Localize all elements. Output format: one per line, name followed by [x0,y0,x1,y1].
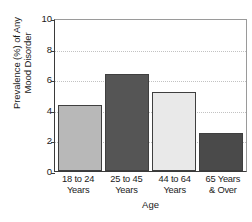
bar-slot [151,20,198,171]
x-axis-tick-label-line: 44 to 64 [151,174,199,185]
x-axis-tick-label: 25 to 45Years [102,174,150,196]
y-axis-tick-label: 6 [28,75,52,85]
y-axis-tick-label: 2 [28,137,52,147]
bar [105,74,149,171]
y-axis-tick-label: 4 [28,106,52,116]
x-axis-tick-labels: 18 to 24Years25 to 45Years44 to 64Years6… [54,174,247,196]
y-axis-tick-label: 0 [28,167,52,177]
bar [58,105,102,171]
x-axis-tick-label-line: & Over [199,185,247,196]
bar-slot [56,20,103,171]
bar-slot [103,20,150,171]
x-axis-tick-label-line: 25 to 45 [102,174,150,185]
bar-chart: Prevalence (%) of Any Mood Disorder 0246… [0,0,252,222]
x-axis-tick-label-line: Years [54,185,102,196]
x-axis-tick-label: 65 Years& Over [199,174,247,196]
bar-slot [198,20,245,171]
y-axis-title-line-1: Prevalence (%) of Any [11,17,23,109]
y-axis-tick-label: 10 [28,14,52,24]
x-axis-tick-label-line: Years [102,185,150,196]
x-axis-tick-label-line: Years [151,185,199,196]
bar [152,92,196,171]
x-axis-title: Age [54,199,247,210]
x-axis-tick-label: 44 to 64Years [151,174,199,196]
x-axis-tick-label-line: 18 to 24 [54,174,102,185]
bar [199,133,243,171]
plot-area [54,19,247,172]
y-axis-tick-label: 8 [28,45,52,55]
x-axis-tick-label: 18 to 24Years [54,174,102,196]
x-axis-tick-label-line: 65 Years [199,174,247,185]
y-axis-tick-labels: 0246810 [28,19,52,172]
bar-series [55,20,246,171]
